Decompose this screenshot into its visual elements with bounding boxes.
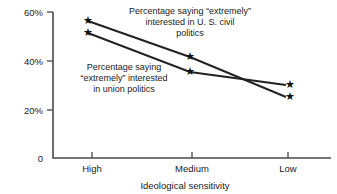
data-point-marker: ★ <box>185 65 195 78</box>
data-point-marker: ★ <box>185 50 195 63</box>
y-tick-label-0: 0 <box>38 153 43 164</box>
data-point-marker: ★ <box>285 90 295 103</box>
y-tick-label-60: 60% <box>24 7 44 18</box>
x-axis-title: Ideological sensitivity <box>140 180 229 191</box>
civil-politics-annotation-line-2: interested in U. S. civil <box>145 17 234 27</box>
union-politics-annotation-line-1: Percentage saying <box>87 62 162 72</box>
y-tick-labels: 60% 40% 20% 0 <box>24 7 44 164</box>
data-point-marker: ★ <box>285 78 295 91</box>
civil-politics-annotation: Percentage saying “extremely” interested… <box>129 6 251 38</box>
civil-politics-annotation-line-1: Percentage saying “extremely” <box>129 6 251 16</box>
x-tick-label-low: Low <box>279 163 297 174</box>
x-tick-labels: High Medium Low <box>82 163 297 174</box>
union-politics-annotation-line-3: in union politics <box>93 84 155 94</box>
chart-canvas: 60% 40% 20% 0 High Medium Low Ideologica… <box>0 0 337 194</box>
union-politics-annotation: Percentage saying “extremely” interested… <box>80 62 167 94</box>
data-point-marker: ★ <box>83 26 93 39</box>
y-tick-label-40: 40% <box>24 56 44 67</box>
chart-figure: 60% 40% 20% 0 High Medium Low Ideologica… <box>0 0 337 194</box>
x-tick-label-high: High <box>82 163 102 174</box>
civil-politics-annotation-line-3: politics <box>176 28 204 38</box>
union-politics-annotation-line-2: “extremely” interested <box>80 73 167 83</box>
y-tick-label-20: 20% <box>24 105 44 116</box>
x-tick-label-medium: Medium <box>175 163 209 174</box>
